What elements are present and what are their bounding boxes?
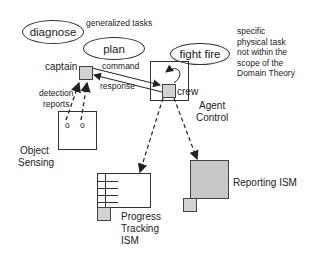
- label-line: Object: [18, 145, 54, 157]
- object-sensing-box: o o: [58, 111, 97, 150]
- crew-agent: [162, 84, 176, 98]
- label-line: Agent: [196, 100, 228, 112]
- label-line: detection: [39, 88, 74, 99]
- list-line: [98, 202, 118, 203]
- task-plan: plan: [83, 37, 145, 60]
- task-diagnose: diagnose: [22, 20, 84, 44]
- label-line: Progress: [121, 211, 161, 223]
- sensor-icon: o: [65, 121, 70, 131]
- task-fight-fire-label: fight fire: [180, 48, 221, 60]
- generalized-tasks-label: generalized tasks: [86, 19, 152, 29]
- agent-control-label: Agent Control: [196, 100, 228, 124]
- list-line: [98, 195, 118, 196]
- reporting-ism-box: [190, 160, 229, 199]
- reporting-ism-label: Reporting ISM: [233, 177, 297, 189]
- reporting-ism-agent: [183, 198, 197, 212]
- progress-tracking-label: Progress Tracking ISM: [121, 211, 161, 247]
- sensor-icon: o: [80, 121, 85, 131]
- task-plan-label: plan: [103, 43, 125, 55]
- note-line: specific: [237, 26, 295, 37]
- list-line: [98, 188, 118, 189]
- note-line: scope of the: [237, 58, 295, 69]
- note-line: not within the: [237, 47, 295, 58]
- label-line: ISM: [121, 235, 161, 247]
- crew-label: crew: [177, 86, 198, 98]
- note-line: Domain Theory: [237, 68, 295, 79]
- response-label: response: [100, 82, 135, 92]
- label-line: Tracking: [121, 223, 161, 235]
- detection-reports-label: detection reports: [39, 88, 74, 109]
- progress-tracking-agent: [97, 207, 111, 221]
- label-line: reports: [39, 99, 74, 110]
- captain-label: captain: [45, 61, 77, 73]
- label-line: Control: [196, 112, 228, 124]
- task-diagnose-label: diagnose: [30, 26, 77, 38]
- progress-tracking-box: [97, 173, 151, 208]
- command-label: command: [102, 62, 139, 72]
- specific-task-note: specific physical task not within the sc…: [237, 26, 295, 79]
- object-sensing-label: Object Sensing: [18, 145, 54, 169]
- captain-agent: [79, 66, 93, 80]
- note-line: physical task: [237, 37, 295, 48]
- label-line: Sensing: [18, 157, 54, 169]
- list-line: [98, 181, 118, 182]
